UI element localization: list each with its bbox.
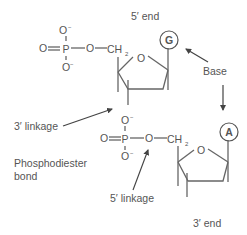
five-prime-end-label: 5′ end — [131, 10, 159, 22]
top-sugar-ring: O G — [118, 31, 178, 105]
bond-line — [118, 57, 133, 72]
five-prime-linkage-label: 5′ linkage — [110, 192, 154, 204]
top-phosphate-o-upper: O — [59, 24, 67, 36]
bottom-ch2: CH — [167, 133, 182, 145]
top-phosphate-group: O − O P O O − CH 2 — [39, 24, 129, 73]
top-ring-oxygen: O — [137, 52, 145, 64]
base-g-label: G — [165, 34, 173, 46]
bottom-phosphate-group: O − O P O O − CH 2 — [100, 114, 189, 162]
three-prime-linkage-arrow — [63, 109, 112, 126]
charge-minus: − — [70, 61, 74, 67]
bottom-phosphate-o-lower: O — [121, 150, 129, 162]
base-a-label: A — [225, 126, 233, 138]
phosphodiester-label-line2: bond — [14, 170, 38, 182]
bottom-phosphate-o-double: O — [100, 132, 108, 144]
bottom-sugar-ring: O A — [178, 123, 238, 197]
bond-line — [178, 162, 228, 181]
bond-line — [178, 150, 194, 162]
base-label: Base — [203, 65, 227, 77]
phosphodiester-label-line1: Phosphodiester — [14, 157, 87, 169]
charge-minus: − — [130, 114, 134, 120]
phosphodiester-diagram: O − O P O O − CH 2 O G O − O P O — [0, 0, 247, 235]
top-ch2: CH — [107, 43, 122, 55]
bottom-phosphorus: P — [121, 133, 128, 145]
charge-minus: − — [68, 24, 72, 30]
top-phosphate-o-double: O — [39, 42, 47, 54]
bond-line — [208, 149, 228, 162]
bond-line — [118, 70, 168, 89]
five-prime-linkage-arrow — [133, 150, 148, 190]
top-phosphorus: P — [62, 43, 69, 55]
three-prime-linkage-label: 3′ linkage — [14, 120, 58, 132]
top-bridge-oxygen: O — [86, 42, 94, 54]
bottom-ch2-subscript: 2 — [185, 141, 189, 147]
bottom-ring-oxygen: O — [197, 144, 205, 156]
bottom-phosphate-o-upper: O — [121, 114, 129, 126]
bottom-bridge-oxygen: O — [145, 132, 153, 144]
top-phosphate-o-lower: O — [62, 61, 70, 73]
bond-line — [148, 56, 168, 70]
three-prime-end-label: 3′ end — [193, 217, 221, 229]
charge-minus: − — [130, 150, 134, 156]
base-to-g-arrow — [186, 49, 208, 62]
top-ch2-subscript: 2 — [125, 51, 129, 57]
